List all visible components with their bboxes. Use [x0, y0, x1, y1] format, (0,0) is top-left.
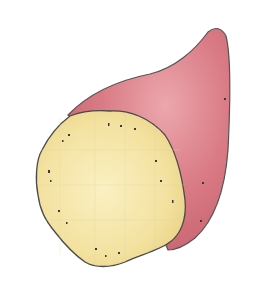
sweet-potato-illustration [0, 0, 262, 296]
illustration-canvas: Watercolor illustration of a sweet potat… [0, 0, 262, 296]
potato-flesh [36, 111, 185, 267]
